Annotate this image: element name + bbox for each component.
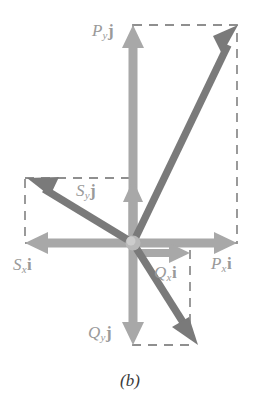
vector-decomposition-figure: Pyj Pxi Syj Sxi Qyj Qxi (b) bbox=[0, 0, 260, 409]
vector-diagram-canvas bbox=[0, 0, 260, 409]
label-px-i-symbol: P bbox=[211, 254, 222, 273]
component-arrows bbox=[25, 25, 237, 345]
label-px-i-unit: i bbox=[226, 254, 231, 273]
label-qy-j-symbol: Q bbox=[88, 323, 100, 342]
label-qx-i-symbol: Q bbox=[154, 263, 166, 282]
label-qy-j: Qyj bbox=[88, 324, 112, 343]
label-sx-i-unit: i bbox=[27, 255, 32, 274]
label-sy-j-symbol: S bbox=[76, 181, 85, 200]
label-qx-i-unit: i bbox=[171, 263, 176, 282]
arrow-vector-p bbox=[133, 25, 238, 243]
label-sy-j-unit: j bbox=[90, 181, 96, 200]
label-qy-j-unit: j bbox=[105, 323, 111, 342]
label-px-i: Pxi bbox=[211, 255, 232, 274]
label-qx-i: Qxi bbox=[154, 264, 177, 283]
label-sx-i-subscript: x bbox=[22, 263, 27, 275]
label-py-j: Pyj bbox=[92, 22, 114, 41]
origin-dot bbox=[126, 236, 141, 251]
label-sx-i: Sxi bbox=[13, 256, 32, 275]
figure-caption: (b) bbox=[0, 371, 260, 391]
label-py-j-unit: j bbox=[107, 21, 113, 40]
label-py-j-symbol: P bbox=[92, 21, 103, 40]
label-sx-i-symbol: S bbox=[13, 255, 22, 274]
label-sy-j-subscript: y bbox=[85, 189, 90, 201]
label-sy-j: Syj bbox=[76, 182, 96, 201]
arrow-vector-q bbox=[133, 243, 198, 345]
